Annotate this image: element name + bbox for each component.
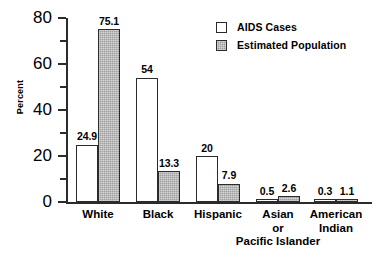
legend-swatch-icon-aids-cases <box>216 22 227 33</box>
legend-item-aids-cases: AIDS Cases <box>216 18 346 36</box>
legend: AIDS Cases Estimated Population <box>216 18 346 54</box>
bar-estimated-population <box>98 29 120 202</box>
bar-aids-cases <box>314 199 336 202</box>
bar-value-label: 20 <box>187 143 227 154</box>
x-axis-category-label: AmericanIndian <box>261 208 381 235</box>
y-axis-tick-label: 40 <box>22 101 52 118</box>
bar-value-label: 54 <box>127 64 167 75</box>
y-axis-tick-major <box>58 63 66 65</box>
legend-item-estimated-population: Estimated Population <box>216 36 346 54</box>
bar-value-label: 2.6 <box>269 183 309 194</box>
bar-aids-cases <box>76 145 98 202</box>
bar-group: 24.975.1 <box>76 18 120 202</box>
legend-label-aids-cases: AIDS Cases <box>237 21 297 33</box>
y-axis-title: Percent <box>15 67 25 127</box>
bar-value-label: 7.9 <box>209 170 249 181</box>
y-axis-tick-label: 60 <box>22 55 52 72</box>
y-axis-tick-major <box>58 155 66 157</box>
x-axis-line <box>66 202 372 204</box>
bar-estimated-population <box>158 171 180 202</box>
y-axis-tick-major <box>58 17 66 19</box>
y-axis-tick-label: 20 <box>22 147 52 164</box>
y-axis-tick-major <box>58 109 66 111</box>
legend-label-estimated-population: Estimated Population <box>237 39 346 51</box>
bar-value-label: 75.1 <box>89 16 129 27</box>
y-axis-tick-major <box>58 201 66 203</box>
x-axis-category-label-line: Indian <box>261 222 381 236</box>
bar-value-label: 13.3 <box>149 158 189 169</box>
bar-chart: Percent 806040200 24.975.15413.3207.90.5… <box>0 0 381 267</box>
y-axis-tick-label: 80 <box>22 9 52 26</box>
bar-estimated-population <box>336 199 358 202</box>
bar-aids-cases <box>256 199 278 202</box>
x-axis-category-label-line: American <box>261 208 381 222</box>
bar-group: 5413.3 <box>136 18 180 202</box>
bar-estimated-population <box>278 196 300 202</box>
x-axis-category-label-line: Pacific Islander <box>203 235 353 249</box>
bar-value-label: 1.1 <box>327 186 367 197</box>
bar-aids-cases <box>136 78 158 202</box>
bar-estimated-population <box>218 184 240 202</box>
legend-swatch-icon-estimated-population <box>216 40 227 51</box>
